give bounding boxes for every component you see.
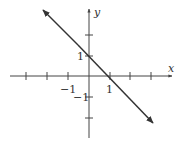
x-axis-label: x	[168, 62, 175, 75]
graph-line	[43, 10, 78, 45]
y-tick-label-1: 1	[77, 50, 84, 63]
x-tick-label-1: 1	[106, 83, 113, 96]
coordinate-plane: x y 1 1 −1 −1	[0, 0, 180, 146]
y-axis-label: y	[93, 6, 101, 19]
y-tick-label-neg1: −1	[73, 91, 89, 104]
